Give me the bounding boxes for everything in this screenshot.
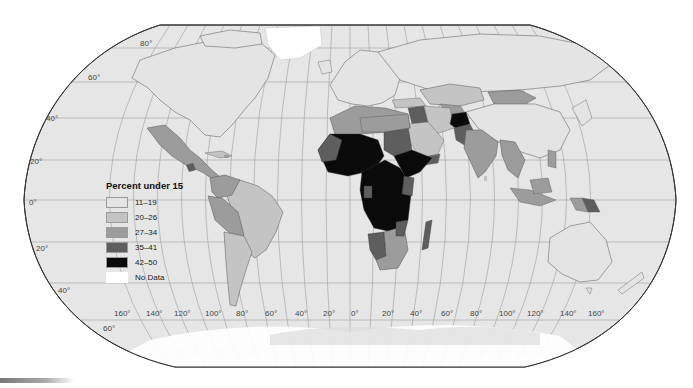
lat-label: 60° xyxy=(103,324,115,333)
lon-label: 0° xyxy=(351,309,359,318)
lat-label: 40° xyxy=(46,114,58,123)
lon-label: 120° xyxy=(527,309,544,318)
philippines xyxy=(548,150,556,168)
lon-label: 120° xyxy=(174,309,191,318)
lon-label: 140° xyxy=(146,309,163,318)
lon-label: 60° xyxy=(265,309,277,318)
legend-item: 35–41 xyxy=(106,240,216,255)
lon-label: 80° xyxy=(470,309,482,318)
lon-label: 20° xyxy=(323,309,335,318)
lat-label: 0° xyxy=(29,198,37,207)
legend-item: 42–50 xyxy=(106,255,216,270)
lon-label: 160° xyxy=(114,309,131,318)
progress-bar-decoration xyxy=(0,378,75,383)
legend-swatch xyxy=(106,257,128,268)
legend-label: 35–41 xyxy=(135,243,157,252)
legend-label: 27–34 xyxy=(135,228,157,237)
lon-label: 80° xyxy=(236,309,248,318)
legend-label: No Data xyxy=(135,273,164,282)
legend-label: 11–19 xyxy=(135,198,157,207)
lon-label: 20° xyxy=(382,309,394,318)
legend: Percent under 15 11–19 20–26 27–34 35–41… xyxy=(106,180,216,285)
lat-label: 60° xyxy=(88,73,100,82)
lon-label: 40° xyxy=(410,309,422,318)
legend-swatch xyxy=(106,197,128,208)
legend-swatch xyxy=(106,227,128,238)
lon-label: 100° xyxy=(499,309,516,318)
legend-item: 27–34 xyxy=(106,225,216,240)
lon-label: 40° xyxy=(295,309,307,318)
legend-swatch xyxy=(106,272,128,283)
legend-swatch xyxy=(106,212,128,223)
lat-label: 20° xyxy=(36,244,48,253)
world-map: 80° 60° 40° 20° 0° 20° 40° 60° 160° 140°… xyxy=(0,0,693,388)
legend-label: 42–50 xyxy=(135,258,157,267)
legend-title: Percent under 15 xyxy=(106,180,216,191)
borneo xyxy=(530,178,552,194)
lon-label: 60° xyxy=(441,309,453,318)
sri-lanka xyxy=(484,176,487,181)
haiti xyxy=(224,155,229,158)
legend-item: 11–19 xyxy=(106,195,216,210)
lat-label: 40° xyxy=(58,286,70,295)
legend-item: 20–26 xyxy=(106,210,216,225)
antarctica-ice-shelf xyxy=(270,327,540,345)
gabon xyxy=(364,186,372,198)
kenya xyxy=(402,176,414,196)
lon-label: 140° xyxy=(560,309,577,318)
lon-label: 160° xyxy=(588,309,605,318)
legend-item: No Data xyxy=(106,270,216,285)
legend-swatch xyxy=(106,242,128,253)
lat-label: 80° xyxy=(140,39,152,48)
lat-label: 20° xyxy=(30,157,42,166)
legend-label: 20–26 xyxy=(135,213,157,222)
lon-label: 100° xyxy=(205,309,222,318)
